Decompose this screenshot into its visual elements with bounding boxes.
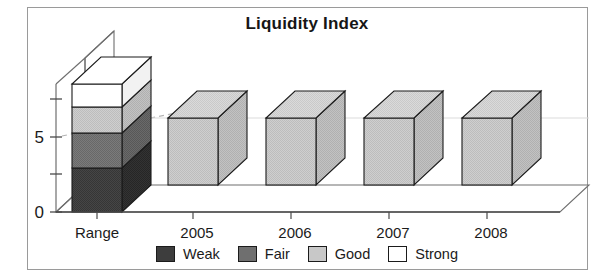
x-label-2006: 2006 [278, 224, 311, 241]
x-label-2007: 2007 [376, 224, 409, 241]
x-label-range: Range [75, 224, 119, 241]
bar-2007[interactable] [364, 91, 443, 185]
x-label-2008: 2008 [474, 224, 507, 241]
legend-item-good[interactable]: Good [308, 246, 370, 262]
legend-item-weak[interactable]: Weak [156, 246, 220, 262]
legend-item-strong[interactable]: Strong [388, 246, 458, 262]
chart-plot-area: 5 0 [0, 0, 614, 280]
legend-label-good: Good [335, 246, 370, 262]
legend-swatch-weak [156, 246, 175, 262]
legend-swatch-fair [238, 246, 257, 262]
x-axis [56, 212, 560, 219]
chart-figure: Liquidity Index [0, 0, 614, 280]
legend-label-fair: Fair [265, 246, 290, 262]
legend-item-fair[interactable]: Fair [238, 246, 290, 262]
x-label-2005: 2005 [180, 224, 213, 241]
bar-2005[interactable] [168, 91, 247, 185]
legend-label-strong: Strong [415, 246, 458, 262]
legend-label-weak: Weak [183, 246, 220, 262]
y-tick-label-5: 5 [35, 128, 44, 147]
legend-swatch-strong [388, 246, 407, 262]
bar-range[interactable] [72, 57, 151, 212]
chart-legend: Weak Fair Good Strong [0, 246, 614, 262]
bar-2006[interactable] [266, 91, 345, 185]
legend-swatch-good [308, 246, 327, 262]
y-tick-label-0: 0 [35, 203, 44, 222]
bar-2008[interactable] [462, 91, 541, 185]
